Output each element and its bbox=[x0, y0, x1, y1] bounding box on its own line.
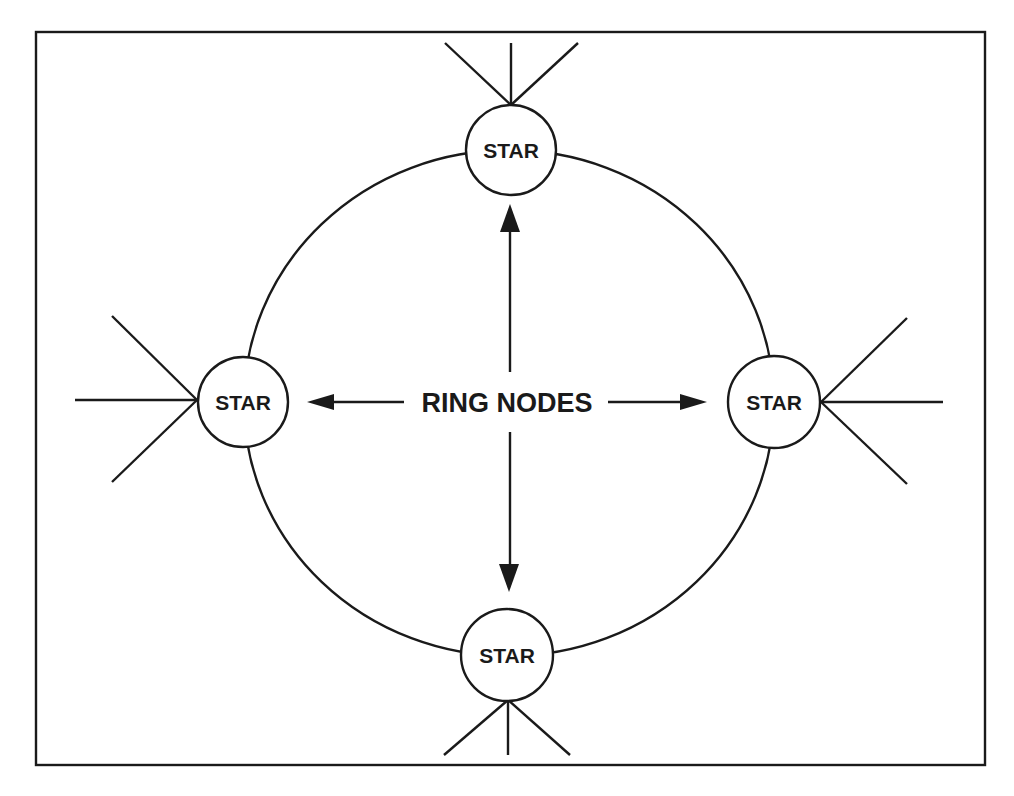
star-node-bottom-label: STAR bbox=[479, 644, 535, 667]
star-node-left: STAR bbox=[198, 357, 288, 447]
bottom-node-spokes bbox=[444, 700, 570, 755]
star-node-bottom: STAR bbox=[461, 609, 553, 701]
star-node-left-label: STAR bbox=[215, 391, 271, 414]
arrow-up bbox=[500, 204, 520, 372]
arrow-left bbox=[307, 394, 404, 410]
arrow-down bbox=[499, 432, 519, 592]
top-node-spokes bbox=[445, 43, 578, 105]
star-node-right: STAR bbox=[728, 356, 820, 448]
star-node-top: STAR bbox=[466, 105, 556, 195]
ring-nodes-label: RING NODES bbox=[421, 388, 592, 418]
arrow-right bbox=[608, 394, 707, 410]
right-node-spokes bbox=[821, 318, 943, 484]
star-node-right-label: STAR bbox=[746, 391, 802, 414]
ring-of-stars-diagram: STAR STAR STAR STAR RING NODES bbox=[0, 0, 1014, 796]
left-node-spokes bbox=[75, 316, 197, 482]
star-node-top-label: STAR bbox=[483, 139, 539, 162]
